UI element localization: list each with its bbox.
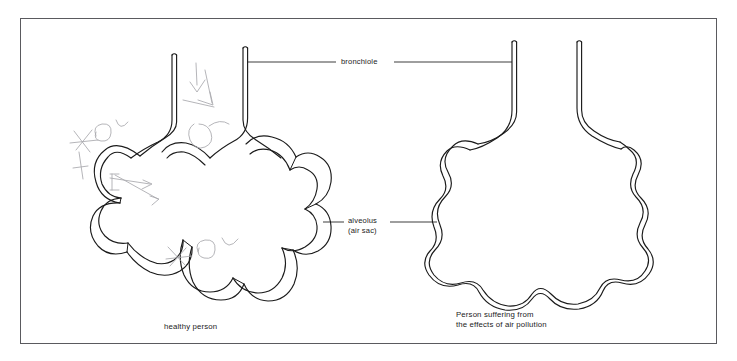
label-alveolus: alveolus(air sac) bbox=[348, 216, 377, 235]
polluted-bronchiole-left bbox=[470, 41, 517, 150]
polluted-bronchiole-right bbox=[577, 41, 621, 149]
polluted-merged-airspace bbox=[425, 141, 654, 310]
label-alveolus-sub: (air sac) bbox=[348, 226, 377, 236]
healthy-lung-group bbox=[90, 47, 331, 301]
healthy-alveolus-right-low bbox=[282, 204, 331, 254]
healthy-alveolus-bottom-right bbox=[233, 248, 297, 301]
healthy-alveolus-top-center bbox=[162, 143, 210, 165]
healthy-alveolus-right bbox=[290, 153, 331, 209]
healthy-alveoli-junctions bbox=[120, 157, 316, 284]
lung-diagram-figure: bronchiole alveolus(air sac) healthy per… bbox=[0, 0, 737, 361]
healthy-bronchiole-right bbox=[210, 47, 281, 158]
healthy-alveolus-upper-right bbox=[246, 136, 296, 170]
caption-polluted-person: Person suffering fromthe effects of air … bbox=[456, 310, 547, 331]
caption-healthy-person: healthy person bbox=[164, 322, 217, 332]
label-bronchiole: bronchiole bbox=[341, 57, 378, 67]
caption-polluted-line2: the effects of air pollution bbox=[456, 320, 547, 329]
healthy-alveolus-bottom-left bbox=[180, 240, 244, 300]
caption-polluted-line1: Person suffering from bbox=[456, 310, 534, 319]
healthy-alveolus-upper-left-2 bbox=[90, 198, 128, 254]
label-alveolus-main: alveolus bbox=[348, 216, 377, 225]
polluted-lung-group bbox=[425, 41, 654, 311]
diagram-artboard bbox=[0, 0, 737, 361]
healthy-bronchiole-left bbox=[131, 54, 177, 158]
